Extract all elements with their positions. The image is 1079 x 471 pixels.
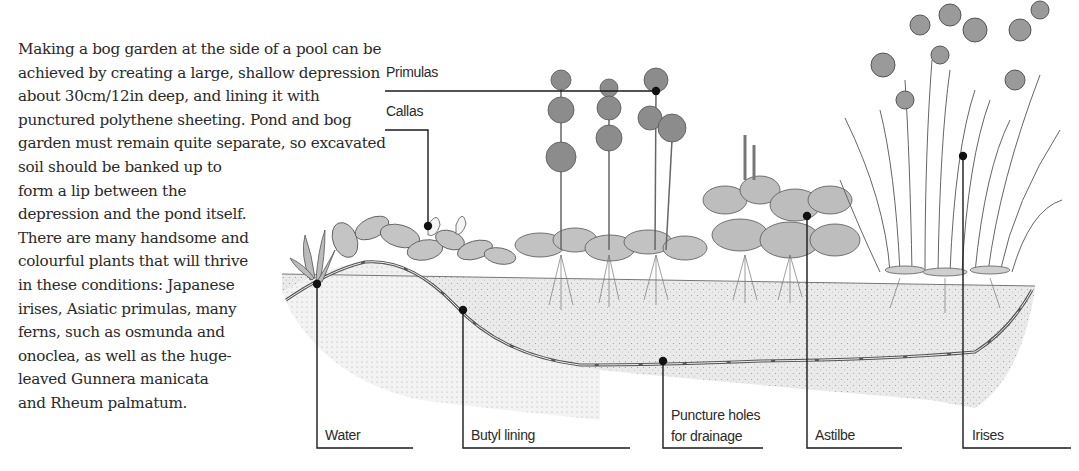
callas-foliage-icon: [328, 211, 518, 266]
soil-section: [282, 262, 1035, 420]
label-puncture-holes: Puncture holes for drainage: [671, 405, 760, 447]
callas-leader: [385, 130, 428, 226]
label-primulas: Primulas: [386, 64, 438, 80]
label-irises: Irises: [972, 427, 1004, 443]
label-puncture-line2: for drainage: [671, 426, 760, 447]
label-butyl-lining: Butyl lining: [471, 427, 535, 443]
label-water: Water: [325, 427, 360, 443]
primulas-plants-icon: [515, 68, 707, 261]
irises-plants-icon: [840, 1, 1062, 276]
bog-garden-illustration: [0, 0, 1079, 471]
label-puncture-line1: Puncture holes: [671, 405, 760, 426]
label-callas: Callas: [386, 103, 423, 119]
label-astilbe: Astilbe: [815, 427, 855, 443]
astilbe-plants-icon: [703, 135, 860, 258]
